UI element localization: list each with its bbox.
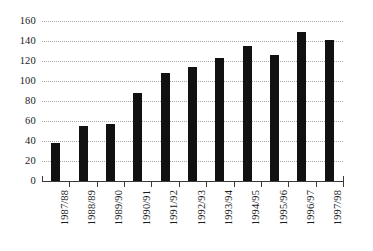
x-axis-tick-label: 1992/93 bbox=[197, 190, 208, 246]
x-axis-tick-label: 1989/90 bbox=[114, 190, 125, 246]
x-axis-tick-label: 1994/95 bbox=[251, 190, 262, 246]
x-axis-tick-label: 1990/91 bbox=[142, 190, 153, 246]
x-axis-tick-label: 1988/89 bbox=[87, 190, 98, 246]
x-axis-tick-label: 1991/92 bbox=[169, 190, 180, 246]
x-axis-tick-label: 1995/96 bbox=[279, 190, 290, 246]
x-axis-tick-label: 1996/97 bbox=[306, 190, 317, 246]
x-axis-tick-label: 1997/98 bbox=[333, 190, 344, 246]
x-axis-tick-label: 1993/94 bbox=[224, 190, 235, 246]
x-axis-tick-labels: 1987/881988/891989/901990/911991/921992/… bbox=[0, 0, 373, 251]
x-axis-tick-label: 1987/88 bbox=[60, 190, 71, 246]
bar-chart: 160 140 120 100 80 60 40 20 0 1987/88198… bbox=[0, 0, 373, 251]
